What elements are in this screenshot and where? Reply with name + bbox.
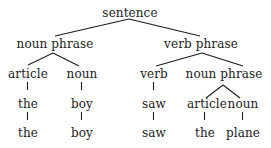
node-saw: saw [142,98,166,110]
node-sentence: sentence [102,7,157,19]
edge-vp-verb [156,53,202,66]
leaf-plane: plane [226,127,260,139]
node-verb: verb [140,68,168,80]
edge-root-vp [129,19,200,36]
node-noun-phrase: noun phrase [17,38,94,50]
node-sub-noun-phrase: noun phrase [186,68,263,80]
leaf-boy: boy [71,127,93,139]
edge-vp-np [202,53,243,66]
node-boy: boy [71,98,93,110]
node-article: article [8,68,48,80]
leaf-the: the [18,127,38,139]
parse-tree-diagram: sentence noun phrase verb phrase article… [0,0,271,148]
leaf-saw: saw [142,127,166,139]
node-the: the [18,98,38,110]
leaf-the-2: the [195,127,215,139]
edge-root-np [55,19,129,36]
edge-np-article [28,53,53,65]
node-noun: noun [67,68,98,80]
node-sub-noun: noun [228,98,259,110]
edge-np-noun [53,53,79,66]
node-sub-article: article [187,98,227,110]
node-verb-phrase: verb phrase [164,38,238,50]
